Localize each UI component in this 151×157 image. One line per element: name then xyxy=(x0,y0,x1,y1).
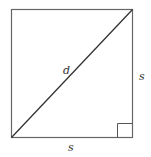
diagonal-line xyxy=(12,10,133,138)
square-diagonal-diagram: d s s xyxy=(0,0,151,157)
right-side-label: s xyxy=(139,70,145,83)
diagonal-label: d xyxy=(63,64,70,77)
bottom-side-label: s xyxy=(68,141,74,154)
right-angle-marker xyxy=(118,124,133,138)
